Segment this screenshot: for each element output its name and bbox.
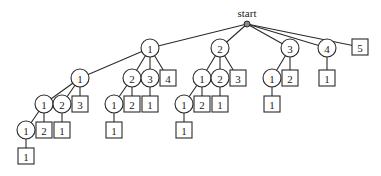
tree-node-circle: 2 <box>211 39 229 57</box>
node-label: 1 <box>324 73 330 85</box>
node-label: 1 <box>199 73 205 85</box>
root-node: start <box>238 7 257 27</box>
tree-node-circle: 1 <box>105 95 123 113</box>
tree-leaf-square: 3 <box>72 96 88 112</box>
tree-leaf-square: 1 <box>54 122 70 138</box>
node-label: 1 <box>269 99 275 111</box>
tree-node-circle: 1 <box>17 121 35 139</box>
tree-leaf-square: 1 <box>18 148 34 164</box>
tree-node-circle: 2 <box>123 69 141 87</box>
node-label: 1 <box>41 99 47 111</box>
node-label: 3 <box>77 99 83 111</box>
node-label: 3 <box>287 43 293 55</box>
tree-edge <box>247 24 360 47</box>
node-label: 2 <box>217 43 223 55</box>
node-label: 1 <box>111 99 117 111</box>
node-label: 1 <box>147 43 153 55</box>
node-label: 1 <box>59 125 65 137</box>
tree-node-circle: 1 <box>175 95 193 113</box>
node-label: 4 <box>324 43 330 55</box>
tree-leaf-square: 2 <box>36 122 52 138</box>
node-label: 2 <box>217 73 223 85</box>
node-label: 1 <box>181 125 187 137</box>
tree-leaf-square: 2 <box>282 70 298 86</box>
node-label: 1 <box>181 99 187 111</box>
tree-leaf-square: 3 <box>230 70 246 86</box>
node-label: 2 <box>129 99 135 111</box>
node-label: 1 <box>217 99 223 111</box>
tree-node-circle: 2 <box>53 95 71 113</box>
node-label: 2 <box>41 125 47 137</box>
tree-leaf-square: 1 <box>142 96 158 112</box>
node-label: 1 <box>23 125 29 137</box>
tree-node-circle: 4 <box>318 39 336 57</box>
node-label: 1 <box>23 151 29 163</box>
tree-leaf-square: 2 <box>124 96 140 112</box>
tree-leaf-square: 2 <box>194 96 210 112</box>
tree-leaf-square: 1 <box>212 96 228 112</box>
tree-leaf-square: 4 <box>160 70 176 86</box>
node-label: 2 <box>199 99 205 111</box>
tree-node-circle: 3 <box>281 39 299 57</box>
node-label: 2 <box>129 73 135 85</box>
start-label: start <box>238 7 257 19</box>
tree-nodes: 1234512341231211121112312111211 <box>17 39 368 164</box>
tree-leaf-square: 1 <box>106 122 122 138</box>
node-label: 1 <box>147 99 153 111</box>
node-label: 3 <box>235 73 241 85</box>
tree-leaf-square: 1 <box>319 70 335 86</box>
node-label: 5 <box>357 42 363 54</box>
start-dot <box>244 21 250 27</box>
tree-node-circle: 1 <box>141 39 159 57</box>
tree-node-circle: 1 <box>263 69 281 87</box>
tree-node-circle: 3 <box>141 69 159 87</box>
tree-edges <box>26 24 360 156</box>
node-label: 1 <box>111 125 117 137</box>
tree-node-circle: 1 <box>193 69 211 87</box>
tree-node-circle: 1 <box>35 95 53 113</box>
node-label: 2 <box>59 99 65 111</box>
tree-node-circle: 2 <box>211 69 229 87</box>
tree-leaf-square: 1 <box>176 122 192 138</box>
node-label: 1 <box>269 73 275 85</box>
tree-leaf-square: 5 <box>352 39 368 55</box>
node-label: 1 <box>77 73 83 85</box>
node-label: 3 <box>147 73 153 85</box>
tree-node-circle: 1 <box>71 69 89 87</box>
tree-leaf-square: 1 <box>264 96 280 112</box>
node-label: 4 <box>165 73 171 85</box>
node-label: 2 <box>287 73 293 85</box>
tree-diagram: 1234512341231211121112312111211 start <box>0 0 381 176</box>
tree-edge <box>150 24 247 48</box>
